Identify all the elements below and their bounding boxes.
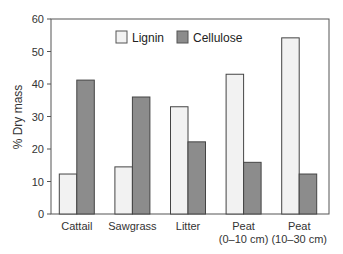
legend-label-lignin: Lignin	[132, 31, 164, 45]
legend: LigninCellulose	[116, 31, 243, 45]
bar-lignin	[115, 167, 132, 214]
bar-cellulose	[77, 80, 95, 214]
bar-cellulose	[244, 162, 262, 214]
y-tick-label: 40	[32, 78, 44, 90]
x-tick-label: Sawgrass	[108, 220, 157, 232]
legend-swatch-lignin	[116, 31, 127, 43]
x-tick-label: Cattail	[61, 220, 92, 232]
legend-label-cellulose: Cellulose	[193, 31, 243, 45]
bar-lignin	[171, 107, 189, 214]
x-tick-label: Peat	[288, 220, 311, 232]
x-axis-labels: CattailSawgrassLitterPeat(0–10 cm)Peat(1…	[61, 220, 327, 245]
bar-lignin	[282, 38, 300, 214]
y-tick-label: 60	[32, 13, 44, 25]
y-tick-label: 10	[32, 176, 44, 188]
y-tick-label: 0	[38, 208, 44, 220]
x-tick-label: Peat	[232, 220, 255, 232]
x-tick-label: Litter	[176, 220, 201, 232]
bar-cellulose	[188, 142, 206, 214]
x-tick-label: (10–30 cm)	[271, 233, 327, 245]
bar-lignin	[226, 74, 244, 214]
y-tick-label: 20	[32, 143, 44, 155]
y-tick-label: 50	[32, 46, 44, 58]
y-axis-title: % Dry mass	[11, 85, 25, 150]
bar-chart: 0102030405060 CattailSawgrassLitterPeat(…	[0, 0, 343, 254]
legend-swatch-cellulose	[177, 31, 188, 43]
bar-cellulose	[132, 97, 150, 214]
y-tick-label: 30	[32, 111, 44, 123]
x-tick-label: (0–10 cm)	[219, 233, 269, 245]
bar-lignin	[59, 174, 77, 214]
bars	[59, 38, 316, 214]
y-axis: 0102030405060	[32, 13, 51, 220]
bar-cellulose	[299, 174, 317, 214]
